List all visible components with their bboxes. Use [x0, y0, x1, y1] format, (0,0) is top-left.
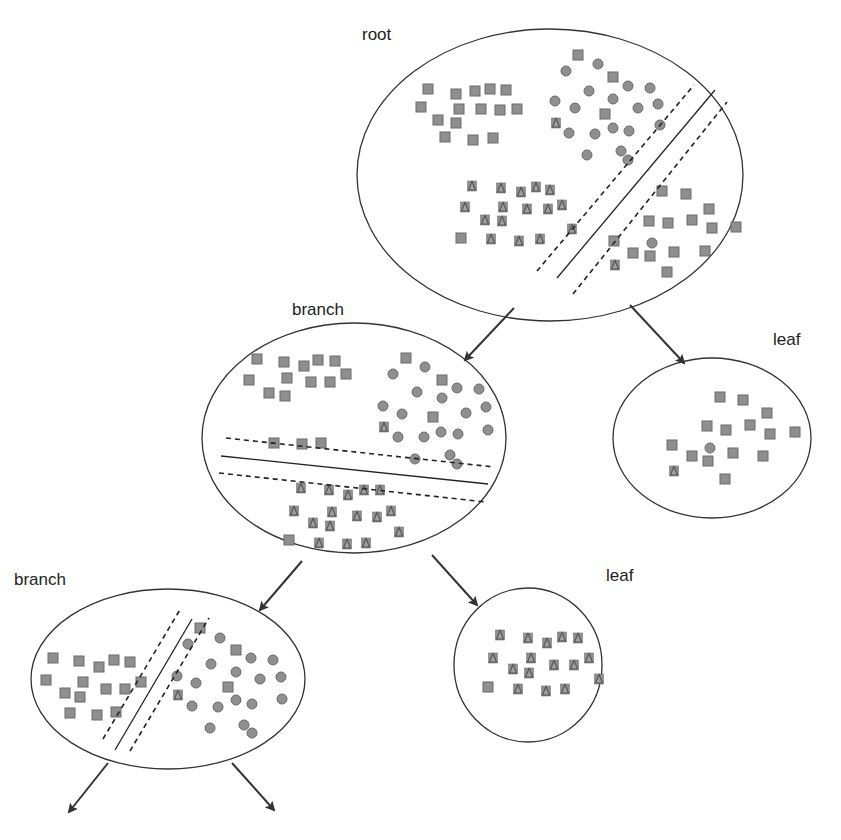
- square-marker-icon: [341, 369, 351, 379]
- circle-marker-icon: [645, 83, 655, 93]
- square-marker-icon: [609, 236, 619, 246]
- square-marker-icon: [485, 84, 495, 94]
- triangle-marker-icon: [544, 204, 553, 214]
- circle-marker-icon: [239, 720, 249, 730]
- square-marker-icon: [231, 645, 241, 655]
- circle-marker-icon: [608, 123, 618, 133]
- square-marker-icon: [94, 662, 104, 672]
- triangle-marker-icon: [525, 668, 534, 678]
- circle-marker-icon: [653, 99, 663, 109]
- square-marker-icon: [700, 246, 710, 256]
- square-marker-icon: [703, 456, 713, 466]
- node-label-branch-2: branch: [14, 570, 66, 589]
- square-marker-icon: [264, 388, 274, 398]
- circle-marker-icon: [187, 701, 197, 711]
- square-marker-icon: [758, 451, 768, 461]
- node-label-leaf-2: leaf: [606, 566, 634, 585]
- circle-marker-icon: [647, 238, 657, 248]
- square-marker-icon: [437, 375, 447, 385]
- square-marker-icon: [423, 84, 433, 94]
- edge-arrow-branch-2-to-child-right: [232, 763, 274, 810]
- leaf-node-ellipse: [613, 358, 811, 518]
- circle-marker-icon: [419, 432, 429, 442]
- triangle-marker-icon: [536, 234, 545, 244]
- square-marker-icon: [738, 395, 748, 405]
- triangle-marker-icon: [515, 236, 524, 246]
- triangle-marker-icon: [353, 511, 362, 521]
- circle-marker-icon: [593, 59, 603, 69]
- square-marker-icon: [440, 132, 450, 142]
- square-marker-icon: [416, 102, 426, 112]
- triangle-marker-icon: [527, 653, 536, 663]
- square-marker-icon: [101, 684, 111, 694]
- triangle-marker-icon: [487, 234, 496, 244]
- square-marker-icon: [451, 89, 461, 99]
- circle-marker-icon: [623, 81, 633, 91]
- node-label-branch-1: branch: [292, 300, 344, 319]
- triangle-marker-icon: [481, 215, 490, 225]
- square-marker-icon: [456, 233, 466, 243]
- triangle-marker-icon: [328, 507, 337, 517]
- square-marker-icon: [433, 115, 443, 125]
- square-marker-icon: [75, 692, 85, 702]
- circle-marker-icon: [206, 659, 216, 669]
- circle-marker-icon: [276, 672, 286, 682]
- square-marker-icon: [669, 247, 679, 257]
- triangle-marker-icon: [376, 485, 385, 495]
- square-marker-icon: [600, 109, 610, 119]
- square-marker-icon: [512, 104, 522, 114]
- node-label-leaf-1: leaf: [773, 330, 801, 349]
- triangle-marker-icon: [343, 539, 352, 549]
- square-marker-icon: [495, 105, 505, 115]
- triangle-marker-icon: [552, 118, 561, 128]
- triangle-marker-icon: [461, 202, 470, 212]
- square-marker-icon: [728, 448, 738, 458]
- square-marker-icon: [401, 353, 411, 363]
- square-marker-icon: [745, 420, 755, 430]
- node-leaf-2: leaf: [454, 566, 634, 742]
- square-marker-icon: [306, 377, 316, 387]
- square-marker-icon: [284, 535, 294, 545]
- square-marker-icon: [644, 216, 654, 226]
- triangle-marker-icon: [468, 181, 477, 191]
- square-marker-icon: [681, 189, 691, 199]
- square-marker-icon: [330, 356, 340, 366]
- square-marker-icon: [120, 684, 130, 694]
- square-marker-icon: [762, 408, 772, 418]
- square-marker-icon: [628, 248, 638, 258]
- triangle-marker-icon: [585, 653, 594, 663]
- circle-marker-icon: [616, 146, 626, 156]
- triangle-marker-icon: [373, 512, 382, 522]
- circle-marker-icon: [393, 432, 403, 442]
- square-marker-icon: [325, 377, 335, 387]
- triangle-marker-icon: [611, 260, 620, 270]
- triangle-marker-icon: [524, 633, 533, 643]
- edges: [69, 305, 684, 812]
- square-marker-icon: [279, 357, 289, 367]
- circle-marker-icon: [570, 103, 580, 113]
- edge-arrow-branch-2-to-child-left: [69, 763, 108, 812]
- triangle-marker-icon: [514, 684, 523, 694]
- square-marker-icon: [476, 104, 486, 114]
- triangle-marker-icon: [360, 485, 369, 495]
- triangle-marker-icon: [499, 202, 508, 212]
- triangle-marker-icon: [362, 538, 371, 548]
- circle-marker-icon: [561, 66, 571, 76]
- margin-line-dashed: [103, 608, 181, 739]
- triangle-marker-icon: [546, 185, 555, 195]
- circle-marker-icon: [231, 667, 241, 677]
- square-marker-icon: [92, 710, 102, 720]
- circle-marker-icon: [474, 384, 484, 394]
- square-marker-icon: [663, 218, 673, 228]
- circle-marker-icon: [453, 429, 463, 439]
- square-marker-icon: [488, 133, 498, 143]
- square-marker-icon: [667, 440, 677, 450]
- square-marker-icon: [687, 215, 697, 225]
- triangle-marker-icon: [574, 633, 583, 643]
- square-marker-icon: [645, 251, 655, 261]
- triangle-marker-icon: [309, 518, 318, 528]
- circle-marker-icon: [255, 674, 265, 684]
- leaf-node-ellipse: [454, 588, 602, 742]
- square-marker-icon: [252, 354, 262, 364]
- circle-marker-icon: [445, 450, 455, 460]
